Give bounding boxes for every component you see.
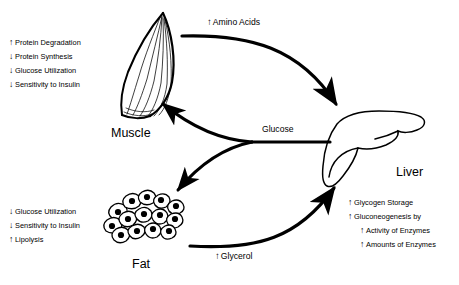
flux-text: Amino Acids	[213, 17, 260, 27]
annotation-text: Protein Degradation	[15, 38, 81, 47]
annotation-text: Glucose Utilization	[15, 66, 76, 75]
muscle-annotation-0: ↑Protein Degradation	[9, 36, 81, 50]
annotation-text: Protein Synthesis	[15, 52, 73, 61]
flux-text: Glucose	[262, 124, 294, 134]
arrow-glucose-to-muscle	[163, 104, 252, 142]
annotation-text: Gluconeogenesis by	[354, 212, 421, 221]
fat-annotation-0: ↓Glucose Utilization	[9, 205, 80, 219]
flux-label-glycerol: ↑Glycerol	[215, 250, 252, 261]
muscle-annotation-2: ↓Glucose Utilization	[9, 64, 81, 78]
flux-label-amino-acids: ↑Amino Acids	[207, 16, 260, 27]
liver-annotation-0: ↑Glycogen Storage	[348, 196, 436, 210]
diagram-canvas: ↑Protein Degradation ↓Protein Synthesis …	[0, 0, 459, 285]
annotation-text: Lipolysis	[15, 235, 43, 244]
muscle-annotation-list: ↑Protein Degradation ↓Protein Synthesis …	[9, 36, 81, 92]
liver-annotation-1: ↑Gluconeogenesis by	[348, 210, 436, 224]
annotation-text: Activity of Enzymes	[366, 226, 430, 235]
organ-label-liver: Liver	[396, 165, 423, 179]
muscle-annotation-1: ↓Protein Synthesis	[9, 50, 81, 64]
fat-annotation-1: ↓Sensitivity to Insulin	[9, 219, 80, 233]
muscle-icon	[121, 13, 173, 118]
liver-annotation-2: ↑Activity of Enzymes	[348, 224, 436, 238]
liver-annotation-3: ↑Amounts of Enzymes	[348, 238, 436, 252]
muscle-annotation-3: ↓Sensitivity to Insulin	[9, 78, 81, 92]
arrow-amino-acids	[182, 36, 336, 104]
flux-text: Glycerol	[221, 251, 253, 261]
flux-label-glucose: Glucose	[261, 123, 294, 134]
annotation-text: Amounts of Enzymes	[366, 240, 436, 249]
organ-label-fat: Fat	[132, 257, 150, 271]
annotation-text: Sensitivity to Insulin	[15, 221, 80, 230]
annotation-text: Glycogen Storage	[354, 198, 413, 207]
annotation-text: Glucose Utilization	[15, 207, 76, 216]
fat-annotation-2: ↑Lipolysis	[9, 233, 80, 247]
fat-annotation-list: ↓Glucose Utilization ↓Sensitivity to Ins…	[9, 205, 80, 247]
arrow-glycerol	[190, 188, 334, 247]
organ-label-muscle: Muscle	[111, 126, 151, 140]
annotation-text: Sensitivity to Insulin	[15, 80, 80, 89]
arrow-glucose-to-fat	[178, 142, 252, 190]
liver-annotation-list: ↑Glycogen Storage ↑Gluconeogenesis by ↑A…	[348, 196, 436, 252]
